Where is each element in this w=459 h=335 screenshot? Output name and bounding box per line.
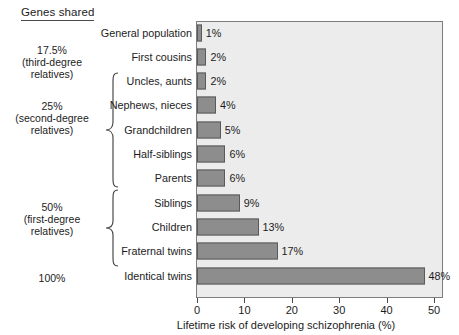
bar-value-label: 2% — [210, 76, 226, 87]
x-axis-tick-label: 30 — [333, 304, 345, 316]
category-label: Fraternal twins — [121, 245, 192, 257]
x-axis-tick-label: 0 — [194, 304, 200, 316]
x-axis-tick-label: 40 — [380, 304, 392, 316]
category-label: Identical twins — [124, 270, 192, 282]
bar-value-label: 13% — [263, 221, 285, 232]
bar-value-label: 9% — [244, 197, 260, 208]
category-label: Half-siblings — [133, 148, 192, 160]
x-axis-tick — [292, 298, 293, 303]
category-label: Parents — [155, 172, 192, 184]
bar — [197, 121, 221, 138]
bar — [197, 97, 216, 114]
x-axis-tick — [244, 298, 245, 303]
category-label: Children — [152, 221, 192, 233]
bar-value-label: 2% — [210, 51, 226, 62]
x-axis-tick — [197, 298, 198, 303]
bar — [197, 218, 259, 235]
bar — [197, 243, 278, 260]
x-axis-tick-label: 10 — [238, 304, 250, 316]
x-axis-title-text: Lifetime risk of developing schizophreni… — [177, 319, 395, 331]
category-label: First cousins — [131, 51, 192, 63]
group-label-identical: 100% — [0, 272, 104, 284]
genes-shared-heading: Genes shared — [21, 6, 94, 21]
bar-value-label: 48% — [429, 270, 451, 281]
group-label-second-degree: 25% (second-degree relatives) — [0, 100, 104, 137]
bar-value-label: 6% — [229, 173, 245, 184]
x-axis-tick-label: 50 — [428, 304, 440, 316]
bar — [197, 267, 425, 284]
group-label-third-degree: 17.5% (third-degree relatives) — [0, 44, 104, 81]
category-label: Uncles, aunts — [127, 75, 192, 87]
bar-value-label: 5% — [225, 124, 241, 135]
x-axis-tick-label: 20 — [286, 304, 298, 316]
brace-second-degree-icon — [104, 72, 120, 188]
bar — [197, 146, 225, 163]
bar-value-label: 6% — [229, 149, 245, 160]
bar — [197, 73, 206, 90]
x-axis-tick — [339, 298, 340, 303]
group-label-first-degree: 50% (first-degree relatives) — [0, 201, 104, 238]
x-axis-tick — [434, 298, 435, 303]
bar-value-label: 1% — [206, 27, 222, 38]
x-axis-title: Lifetime risk of developing schizophreni… — [0, 319, 459, 331]
bar — [197, 170, 225, 187]
category-label: General population — [101, 27, 192, 39]
bar — [197, 24, 202, 41]
category-label: Siblings — [154, 197, 192, 209]
category-label: Nephews, nieces — [110, 99, 192, 111]
category-label: Grandchildren — [124, 124, 192, 136]
bar-value-label: 17% — [282, 246, 304, 257]
bar — [197, 194, 240, 211]
bar — [197, 48, 206, 65]
brace-first-degree-icon — [104, 189, 120, 267]
x-axis-tick — [387, 298, 388, 303]
bar-value-label: 4% — [220, 100, 236, 111]
